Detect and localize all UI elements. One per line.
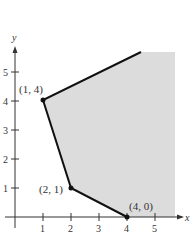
y-tick-label: 3: [3, 125, 8, 136]
x-tick-label: 3: [96, 223, 101, 234]
feasible-region-graph: x y 1 2 3 4 5 1 2 3 4 5 (1, 4) (2, 1) (4…: [0, 0, 191, 242]
x-axis-label: x: [184, 212, 190, 223]
y-axis-arrow-icon: [13, 46, 18, 53]
y-tick-label: 1: [3, 183, 8, 194]
vertex-point: [69, 186, 74, 191]
vertex-point: [125, 215, 130, 220]
y-tick-label: 5: [3, 67, 8, 78]
y-tick-label: 2: [3, 154, 8, 165]
vertex-label: (4, 0): [129, 200, 153, 213]
y-axis-label: y: [11, 32, 17, 43]
vertex-label: (1, 4): [19, 83, 43, 96]
x-tick-label: 1: [40, 223, 45, 234]
x-tick-label: 5: [152, 223, 157, 234]
vertex-point: [41, 98, 46, 103]
x-tick-label: 2: [68, 223, 73, 234]
x-tick-label: 4: [124, 223, 129, 234]
x-axis-arrow-icon: [177, 215, 184, 220]
vertex-label: (2, 1): [39, 183, 63, 196]
y-tick-label: 4: [3, 96, 8, 107]
